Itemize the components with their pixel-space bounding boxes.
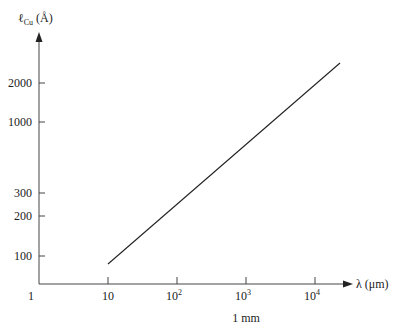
skin-depth-chart: ℓCu(Å) λ (μm) 2000 1000 300 200 100 1 10…	[0, 0, 398, 330]
skin-depth-line	[108, 63, 340, 264]
y-axis-label: ℓCu(Å)	[18, 11, 53, 27]
x-axis-arrow-icon	[343, 281, 353, 288]
y-axis-arrow-icon	[36, 32, 43, 42]
y-tick-label: 200	[14, 209, 32, 223]
x-tick-label: 102	[166, 288, 182, 303]
x-tick-label: 10	[102, 289, 114, 303]
x-tick-label: 104	[304, 288, 320, 303]
y-tick-label: 1000	[8, 115, 32, 129]
x-tick-label: 1	[28, 289, 34, 303]
y-tick-label: 100	[14, 249, 32, 263]
annotation-1mm: 1 mm	[232, 311, 260, 325]
x-tick-label: 103	[235, 288, 251, 303]
x-axis-label: λ (μm)	[356, 277, 389, 291]
y-tick-label: 300	[14, 186, 32, 200]
x-ticks: 1 10 102 103 104	[28, 277, 320, 303]
y-tick-label: 2000	[8, 76, 32, 90]
